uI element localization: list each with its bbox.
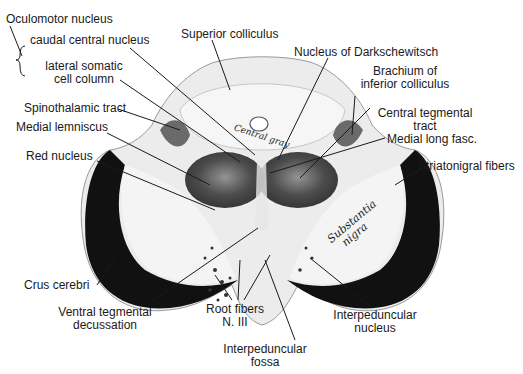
label-oculomotor-nucleus: Oculomotor nucleus	[6, 13, 113, 26]
label-line: decussation	[50, 319, 160, 332]
label-spinothalamic-tract: Spinothalamic tract	[24, 102, 126, 115]
midbrain-section-figure: Central gray Substantia nigra Oculomotor…	[0, 0, 523, 374]
label-ventral-tegmental-decussation: Ventral tegmental decussation	[50, 306, 160, 332]
label-line: fossa	[210, 356, 320, 369]
label-nucleus-of-darkschewitsch: Nucleus of Darkschewitsch	[294, 46, 438, 59]
label-striatonigral-fibers: Striatonigral fibers	[418, 160, 515, 173]
label-crus-cerebri: Crus cerebri	[24, 279, 89, 292]
label-brachium-inferior-colliculus: Brachium of inferior colliculus	[350, 65, 460, 91]
label-lateral-somatic-cell-column: lateral somatic cell column	[34, 60, 134, 86]
label-interpeduncular-fossa: Interpeduncular fossa	[210, 343, 320, 369]
label-medial-longitudinal-fasciculus: Medial long fasc.	[387, 133, 477, 146]
label-central-tegmental-tract: Central tegmental tract	[370, 107, 480, 133]
label-line: N. III	[200, 316, 270, 329]
label-interpeduncular-nucleus: Interpeduncular nucleus	[320, 309, 430, 335]
label-medial-lemniscus: Medial lemniscus	[16, 121, 108, 134]
label-superior-colliculus: Superior colliculus	[181, 28, 278, 41]
label-root-fibers-n-iii: Root fibers N. III	[200, 303, 270, 329]
label-red-nucleus: Red nucleus	[26, 150, 93, 163]
red-nucleus-right	[258, 152, 338, 208]
label-line: inferior colliculus	[350, 78, 460, 91]
red-nucleus-left	[185, 152, 265, 208]
label-line: cell column	[34, 73, 134, 86]
label-line: nucleus	[320, 322, 430, 335]
label-caudal-central-nucleus: caudal central nucleus	[30, 34, 149, 47]
